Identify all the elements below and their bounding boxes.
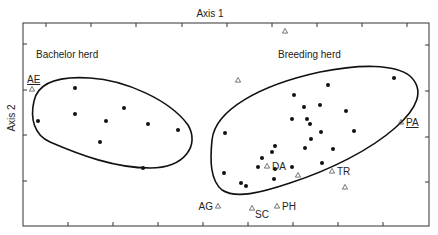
data-point: [352, 129, 356, 133]
data-point: [73, 86, 77, 90]
data-point: [98, 140, 102, 144]
data-point: [309, 137, 313, 141]
data-point: [305, 117, 309, 121]
data-point: [141, 166, 145, 170]
triangle-marker-icon: [215, 203, 220, 208]
point-label-ag: AG: [199, 201, 214, 212]
point-label-tr: TR: [337, 166, 350, 177]
triangle-marker-icon: [282, 28, 287, 33]
triangle-marker-icon: [264, 163, 269, 168]
data-point: [146, 122, 150, 126]
point-label-pa: PA: [406, 117, 419, 128]
data-point: [319, 130, 323, 134]
herd-enclosures: [33, 66, 418, 194]
data-point: [308, 122, 312, 126]
group-label-breeding: Breeding herd: [278, 49, 341, 60]
point-label-sc: SC: [255, 209, 269, 220]
data-point: [270, 150, 274, 154]
enclosure-breeding-herd: [211, 66, 418, 194]
point-label-da: DA: [272, 161, 286, 172]
data-point: [302, 105, 306, 109]
y-axis-label: Axis 2: [6, 104, 17, 132]
enclosure-bachelor-herd: [33, 78, 193, 168]
data-point: [290, 117, 294, 121]
point-label-ae: AE: [27, 74, 41, 85]
data-point: [36, 119, 40, 123]
data-point: [320, 161, 324, 165]
triangle-marker-icon: [29, 86, 34, 91]
data-point: [272, 177, 276, 181]
triangle-marker-icon: [329, 168, 334, 173]
data-point: [244, 184, 248, 188]
data-point: [239, 181, 243, 185]
data-point: [392, 76, 396, 80]
data-point: [273, 144, 277, 148]
data-point: [222, 171, 226, 175]
data-point: [303, 146, 307, 150]
data-point: [104, 119, 108, 123]
data-point: [256, 165, 260, 169]
data-point: [176, 128, 180, 132]
data-point: [73, 112, 77, 116]
group-label-bachelor: Bachelor herd: [36, 49, 98, 60]
data-point: [260, 156, 264, 160]
data-point: [344, 109, 348, 113]
triangle-marker-icon: [249, 205, 254, 210]
triangle-marker-icon: [295, 172, 300, 177]
data-point: [290, 165, 294, 169]
point-label-ph: PH: [282, 201, 296, 212]
data-point: [292, 93, 296, 97]
data-point: [223, 131, 227, 135]
data-point: [326, 83, 330, 87]
scatter-chart: AEPADATRAGSCPH Axis 1 Axis 2 Bachelor he…: [0, 0, 438, 235]
data-point: [318, 103, 322, 107]
triangle-marker-icon: [235, 77, 240, 82]
x-axis-label: Axis 1: [196, 8, 224, 19]
data-point: [331, 147, 335, 151]
triangle-marker-icon: [342, 184, 347, 189]
triangle-marker-icon: [274, 203, 279, 208]
data-point: [122, 106, 126, 110]
